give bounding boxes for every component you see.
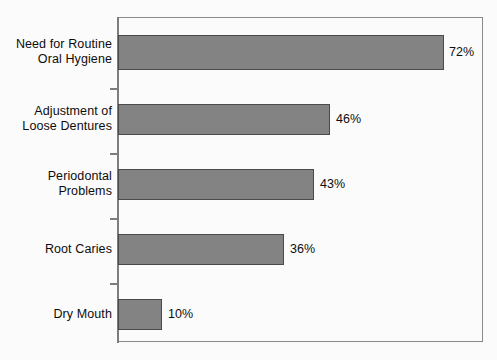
- value-label: 43%: [320, 177, 345, 191]
- axis-tick: [110, 88, 118, 90]
- category-label: Need for Routine Oral Hygiene: [16, 37, 112, 67]
- value-label: 10%: [168, 307, 193, 321]
- value-label: 72%: [449, 45, 474, 59]
- axis-tick: [110, 153, 118, 155]
- category-label: Root Caries: [45, 242, 112, 257]
- bar: [118, 104, 330, 135]
- value-label: 36%: [290, 242, 315, 256]
- value-label: 46%: [336, 112, 361, 126]
- axis-tick: [110, 283, 118, 285]
- chart-canvas: Need for Routine Oral HygieneAdjustment …: [0, 0, 497, 360]
- axis-tick: [110, 218, 118, 220]
- bar: [118, 234, 284, 265]
- bar: [118, 299, 162, 330]
- category-label: Periodontal Problems: [48, 169, 112, 199]
- category-label: Dry Mouth: [53, 307, 112, 322]
- category-label: Adjustment of Loose Dentures: [22, 104, 112, 134]
- bar: [118, 35, 444, 70]
- bar: [118, 169, 314, 200]
